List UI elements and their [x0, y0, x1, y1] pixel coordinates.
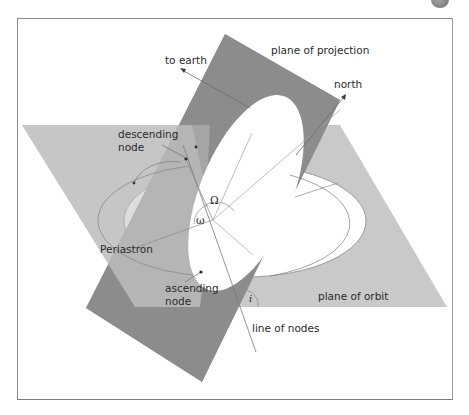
label-longitude-ascending-node: Ω — [210, 194, 219, 206]
label-to-earth: to earth — [165, 54, 207, 66]
label-ascending-node-line2: node — [165, 295, 191, 307]
label-inclination: i — [249, 293, 252, 305]
label-ascending-node-line1: ascending — [165, 282, 219, 294]
label-argument-periastron: ω — [196, 214, 205, 226]
label-plane-of-projection: plane of projection — [271, 44, 369, 56]
label-plane-of-orbit: plane of orbit — [318, 290, 388, 302]
label-descending-node-line2: node — [118, 141, 144, 153]
label-line-of-nodes: line of nodes — [252, 322, 319, 334]
orbit-diagram — [0, 0, 469, 415]
label-descending-node-line1: descending — [118, 128, 178, 140]
label-periastron: Periastron — [100, 243, 153, 255]
label-north: north — [334, 78, 362, 90]
